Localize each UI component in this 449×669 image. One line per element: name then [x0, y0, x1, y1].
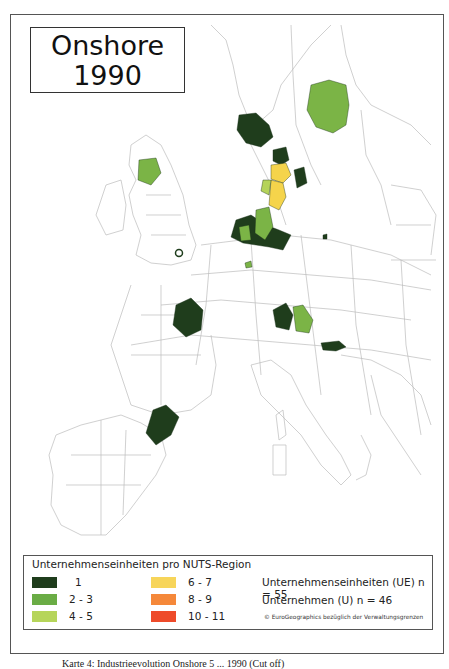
copyright-note: © EuroGeographics bezüglich der Verwaltu… — [264, 614, 423, 620]
map-title-line1: Onshore — [31, 31, 184, 61]
legend-swatch — [151, 577, 176, 588]
legend: Unternehmenseinheiten pro NUTS-Region 1 … — [23, 555, 433, 630]
map-title-line2: 1990 — [31, 61, 184, 91]
legend-label: 2 - 3 — [69, 593, 93, 605]
stat-unternehmen: Unternehmen (U) n = 46 — [262, 594, 392, 606]
legend-class-8-9: 8 - 9 — [151, 593, 212, 605]
legend-class-1: 1 — [32, 576, 82, 588]
legend-class-6-7: 6 - 7 — [151, 576, 212, 588]
legend-class-4-5: 4 - 5 — [32, 610, 93, 622]
legend-class-10-11: 10 - 11 — [151, 610, 225, 622]
legend-class-2-3: 2 - 3 — [32, 593, 93, 605]
legend-swatch — [151, 611, 176, 622]
map-title: Onshore 1990 — [30, 27, 185, 93]
legend-label: 4 - 5 — [69, 610, 93, 622]
legend-swatch — [151, 594, 176, 605]
map-frame: Onshore 1990 Unternehmenseinheiten pro N… — [10, 14, 444, 654]
legend-label: 6 - 7 — [188, 576, 212, 588]
legend-title: Unternehmenseinheiten pro NUTS-Region — [32, 558, 251, 570]
figure-caption: Karte 4: Industrieevolution Onshore 5 ..… — [62, 658, 284, 669]
legend-swatch — [32, 577, 57, 588]
legend-swatch — [32, 594, 57, 605]
legend-label: 8 - 9 — [188, 593, 212, 605]
legend-label: 1 — [75, 576, 82, 588]
legend-label: 10 - 11 — [188, 610, 225, 622]
legend-swatch — [32, 611, 57, 622]
europe-map — [11, 15, 443, 555]
